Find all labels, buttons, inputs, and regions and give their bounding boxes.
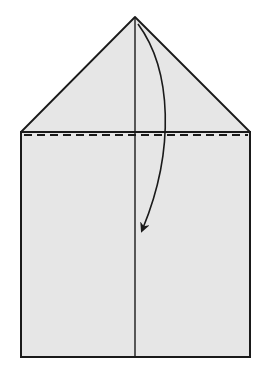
diagram-canvas xyxy=(0,0,266,390)
origami-diagram xyxy=(0,0,266,390)
